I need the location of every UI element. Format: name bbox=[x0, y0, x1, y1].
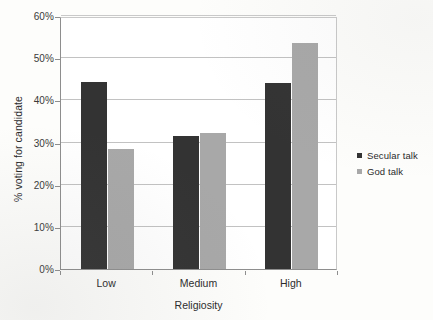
legend-label: God talk bbox=[367, 166, 403, 177]
plot-area bbox=[60, 17, 337, 270]
legend-swatch-icon bbox=[357, 153, 362, 158]
x-tick-mark-2 bbox=[245, 271, 246, 275]
y-tick-mark-10 bbox=[55, 228, 60, 229]
y-axis-title: % voting for candidate bbox=[12, 39, 24, 259]
bar-low-god-talk bbox=[108, 149, 134, 269]
x-tick-label-high: High bbox=[251, 277, 331, 289]
y-tick-label-60: 60% bbox=[14, 12, 54, 22]
x-tick-mark-0 bbox=[60, 271, 61, 275]
legend-label: Secular talk bbox=[367, 150, 418, 161]
y-tick-mark-50 bbox=[55, 59, 60, 60]
bar-high-secular-talk bbox=[265, 83, 291, 269]
bar-chart-figure: 60%50%40%30%20%10%0% % voting for candid… bbox=[0, 0, 433, 320]
y-tick-mark-40 bbox=[55, 101, 60, 102]
legend-item-god-talk: God talk bbox=[357, 166, 418, 177]
gridline-60 bbox=[61, 15, 336, 16]
x-tick-label-medium: Medium bbox=[159, 277, 239, 289]
x-tick-mark-1 bbox=[152, 271, 153, 275]
legend-swatch-icon bbox=[357, 169, 362, 174]
x-axis-title: Religiosity bbox=[60, 299, 337, 311]
y-tick-mark-60 bbox=[55, 17, 60, 18]
x-tick-label-low: Low bbox=[66, 277, 146, 289]
bar-high-god-talk bbox=[292, 43, 318, 269]
legend-item-secular-talk: Secular talk bbox=[357, 150, 418, 161]
x-tick-mark-3 bbox=[337, 271, 338, 275]
chart-legend: Secular talkGod talk bbox=[357, 150, 418, 182]
bar-medium-god-talk bbox=[200, 133, 226, 269]
y-tick-mark-30 bbox=[55, 144, 60, 145]
y-tick-label-0: 0% bbox=[14, 265, 54, 275]
bar-medium-secular-talk bbox=[173, 136, 199, 269]
y-tick-mark-20 bbox=[55, 186, 60, 187]
bar-low-secular-talk bbox=[81, 82, 107, 269]
